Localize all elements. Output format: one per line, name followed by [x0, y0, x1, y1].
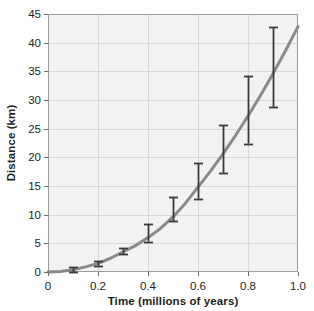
y-tick-label: 25: [28, 123, 41, 135]
chart-container: 051015202530354045 00.20.40.60.81.0 Time…: [0, 0, 314, 311]
y-tick-label: 10: [28, 209, 41, 221]
distance-vs-time-chart: 051015202530354045 00.20.40.60.81.0 Time…: [0, 0, 314, 311]
y-tick-label: 15: [28, 180, 41, 192]
y-tick-label: 40: [28, 37, 41, 49]
x-axis-title: Time (millions of years): [108, 295, 239, 307]
x-tick-label: 0: [45, 280, 51, 292]
x-tick-label: 0.4: [140, 280, 157, 292]
y-tick-label: 0: [35, 266, 41, 278]
y-tick-label: 5: [35, 237, 41, 249]
y-tick-label: 35: [28, 65, 41, 77]
y-axis-title: Distance (km): [5, 105, 17, 182]
x-tick-labels: 00.20.40.60.81.0: [45, 272, 306, 292]
y-tick-label: 30: [28, 94, 41, 106]
y-tick-labels: 051015202530354045: [28, 8, 48, 278]
x-tick-label: 0.2: [90, 280, 106, 292]
x-tick-label: 0.8: [240, 280, 256, 292]
y-tick-label: 20: [28, 151, 41, 163]
y-tick-label: 45: [28, 8, 41, 20]
plot-background: [48, 14, 298, 272]
x-tick-label: 1.0: [290, 280, 306, 292]
x-tick-label: 0.6: [190, 280, 206, 292]
